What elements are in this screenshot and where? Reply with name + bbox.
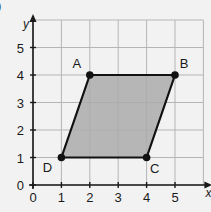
y-tick-label: 5 — [17, 41, 24, 56]
x-tick-label: 2 — [86, 190, 93, 205]
y-axis-arrow-icon — [30, 14, 37, 22]
coordinate-plane: ) 012345012345xy ABCD — [0, 0, 211, 212]
y-tick-label: 4 — [17, 68, 24, 83]
parallelogram-fill — [61, 75, 175, 158]
parallelogram-layer — [61, 75, 175, 158]
y-axis-label: y — [22, 17, 30, 31]
y-tick-label: 2 — [17, 123, 24, 138]
y-tick-label: 0 — [17, 178, 24, 193]
vertex-label-a: A — [72, 56, 81, 71]
x-tick-label: 3 — [115, 190, 122, 205]
y-tick-label: 3 — [17, 96, 24, 111]
y-tick-label: 1 — [17, 151, 24, 166]
x-tick-label: 4 — [143, 190, 150, 205]
x-tick-label: 5 — [171, 190, 178, 205]
x-axis-label: x — [204, 186, 211, 200]
vertex-label-d: D — [43, 160, 52, 175]
vertex-label-b: B — [180, 56, 189, 71]
x-tick-label: 1 — [58, 190, 65, 205]
vertex-point-b — [171, 71, 179, 79]
problem-label-fragment: ) — [0, 0, 1, 13]
x-tick-label: 0 — [29, 190, 36, 205]
vertex-label-c: C — [150, 161, 159, 176]
vertex-point-d — [58, 154, 66, 162]
vertex-point-a — [86, 71, 94, 79]
